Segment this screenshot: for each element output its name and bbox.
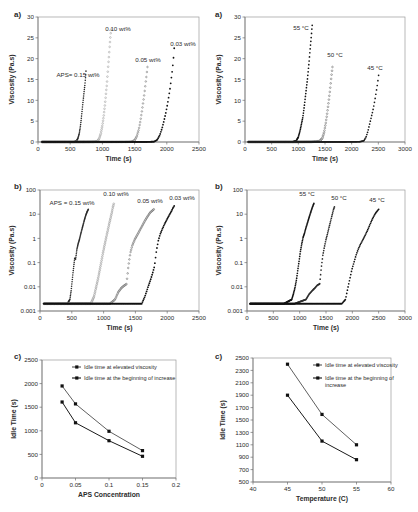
data-point <box>88 208 90 210</box>
data-point <box>357 250 359 252</box>
data-point <box>165 112 167 114</box>
data-point <box>158 237 160 239</box>
y-axis-title: Viscosity (Pa.s) <box>215 54 223 104</box>
data-point <box>330 217 332 219</box>
data-point <box>143 95 145 97</box>
data-point <box>105 239 107 241</box>
data-point <box>325 119 327 121</box>
data-point <box>366 134 368 136</box>
data-point <box>93 295 95 297</box>
y-tick-label: 900 <box>239 453 250 460</box>
data-point <box>72 274 74 276</box>
data-point <box>103 250 105 252</box>
data-point <box>162 124 164 126</box>
data-marker <box>141 455 144 458</box>
chart-a-right: a) 050010001500200025003000051015202530T… <box>209 0 418 172</box>
data-point <box>100 262 102 264</box>
data-point <box>345 299 347 301</box>
data-point <box>76 249 78 251</box>
panel-label-c-right: c) <box>215 352 222 361</box>
data-point <box>80 120 82 122</box>
data-marker <box>320 439 323 442</box>
x-axis-title: Time (s) <box>107 324 133 332</box>
data-point <box>139 121 141 123</box>
data-point <box>303 110 305 112</box>
data-point <box>319 283 321 285</box>
data-point <box>172 64 174 66</box>
data-point <box>305 93 307 95</box>
y-tick-label: 30 <box>27 13 34 20</box>
data-point <box>76 251 78 253</box>
series-annotation: 0.03 wt% <box>169 194 195 201</box>
data-point <box>306 81 308 83</box>
y-tick-label: 0.01 <box>24 283 37 290</box>
y-tick-label: 1500 <box>235 416 249 423</box>
data-point <box>98 273 100 275</box>
data-marker <box>355 458 358 461</box>
data-point <box>142 301 144 303</box>
x-tick-label: 0 <box>38 314 42 321</box>
data-marker <box>74 402 77 405</box>
data-point <box>357 248 359 250</box>
data-point <box>332 212 334 214</box>
data-point <box>296 279 298 281</box>
data-point <box>345 296 347 298</box>
x-tick-label: 2000 <box>160 145 174 152</box>
data-point <box>71 283 73 285</box>
data-point <box>106 233 108 235</box>
data-point <box>100 264 102 266</box>
data-point <box>301 243 303 245</box>
data-point <box>148 284 150 286</box>
chart-b-right: b) 0500100015002000250030000.0010.010.11… <box>209 170 418 342</box>
data-point <box>304 99 306 101</box>
series-2 <box>249 208 379 304</box>
data-point <box>71 281 73 283</box>
y-tick-label: 0.001 <box>228 307 244 314</box>
data-point <box>83 93 85 95</box>
series-line-1 <box>288 395 357 459</box>
data-point <box>326 235 328 237</box>
data-point <box>81 108 83 110</box>
data-point <box>108 61 110 63</box>
data-point <box>351 268 353 270</box>
data-point <box>107 71 109 73</box>
data-point <box>365 136 367 138</box>
legend-label-0: Idle time at elevated viscosity <box>325 362 398 368</box>
data-point <box>327 230 329 232</box>
data-point <box>376 89 378 91</box>
data-point <box>301 241 303 243</box>
data-point <box>137 131 139 133</box>
data-point <box>299 256 301 258</box>
data-point <box>79 127 81 129</box>
x-tick-label: 0 <box>40 481 44 488</box>
data-point <box>307 75 309 77</box>
data-point <box>136 135 138 137</box>
data-point <box>79 129 81 131</box>
data-point <box>320 269 322 271</box>
data-point <box>147 66 149 68</box>
data-point <box>146 291 148 293</box>
x-tick-label: 0.2 <box>172 481 181 488</box>
data-point <box>101 256 103 258</box>
data-point <box>327 109 329 111</box>
data-point <box>301 124 303 126</box>
data-point <box>141 303 143 305</box>
data-point <box>150 278 152 280</box>
data-point <box>84 89 86 91</box>
data-point <box>303 112 305 114</box>
x-tick-label: 1000 <box>293 314 307 321</box>
y-tick-label: 2000 <box>24 380 38 387</box>
data-point <box>367 229 369 231</box>
data-point <box>300 249 302 251</box>
data-point <box>73 266 75 268</box>
data-point <box>298 263 300 265</box>
data-point <box>329 91 331 93</box>
data-point <box>296 277 298 279</box>
data-point <box>171 71 173 73</box>
data-point <box>142 300 144 302</box>
data-point <box>98 275 100 277</box>
data-point <box>82 102 84 104</box>
data-point <box>166 105 168 107</box>
y-tick-label: 500 <box>239 478 250 485</box>
y-tick-label: 0 <box>35 474 39 481</box>
